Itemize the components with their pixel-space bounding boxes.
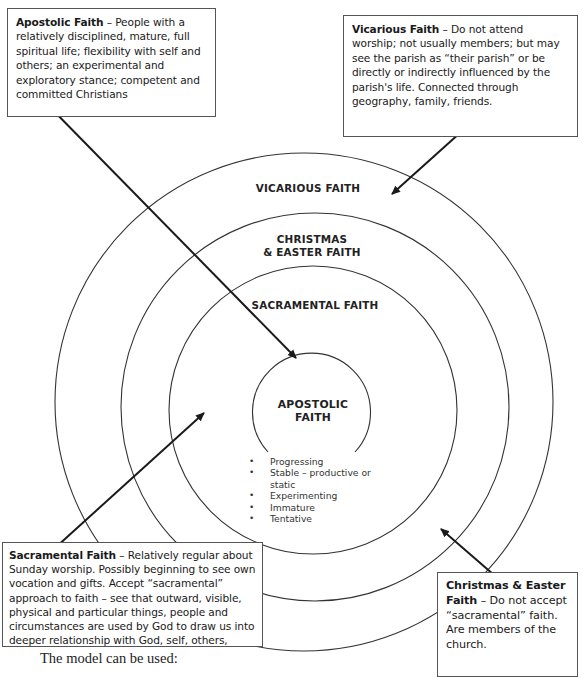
footer-text: The model can be used: bbox=[40, 650, 178, 667]
callout-sacramental: Sacramental Faith – Relatively regular a… bbox=[2, 542, 263, 647]
callout-title: Vicarious Faith bbox=[352, 23, 439, 35]
trait-item: Stable – productive or static bbox=[246, 467, 376, 490]
ring-label-christmas-easter: CHRISTMAS & EASTER FAITH bbox=[263, 233, 361, 259]
trait-item: Experimenting bbox=[246, 490, 376, 501]
ring-label-sacramental: SACRAMENTAL FAITH bbox=[252, 299, 379, 312]
trait-item: Tentative bbox=[246, 513, 376, 524]
ring-label-text: SACRAMENTAL FAITH bbox=[252, 299, 379, 311]
callout-apostolic: Apostolic Faith – People with a relative… bbox=[7, 8, 216, 117]
callout-text: – People with a relatively disciplined, … bbox=[16, 16, 201, 100]
ring-label-line: APOSTOLIC bbox=[278, 398, 348, 411]
arrow-christmas-easter bbox=[441, 529, 494, 575]
callout-christmas-easter: Christmas & Easter Faith – Do not accept… bbox=[437, 572, 578, 677]
callout-title: Apostolic Faith bbox=[16, 16, 103, 28]
ring-label-vicarious: VICARIOUS FAITH bbox=[256, 182, 360, 195]
ring-label-line: FAITH bbox=[278, 411, 348, 424]
arrow-sacramental bbox=[55, 413, 204, 548]
trait-item: Immature bbox=[246, 502, 376, 513]
trait-item: Progressing bbox=[246, 456, 376, 467]
ring-label-text: VICARIOUS FAITH bbox=[256, 182, 360, 194]
callout-text: – Relatively regular about Sunday worshi… bbox=[9, 549, 255, 646]
callout-text: – Do not attend worship; not usually mem… bbox=[352, 23, 560, 107]
ring-label-line: & EASTER FAITH bbox=[263, 246, 361, 259]
ring-label-line: CHRISTMAS bbox=[263, 233, 361, 246]
apostolic-traits-list: Progressing Stable – productive or stati… bbox=[246, 456, 376, 524]
ring-label-apostolic: APOSTOLIC FAITH bbox=[278, 398, 348, 424]
callout-vicarious: Vicarious Faith – Do not attend worship;… bbox=[343, 15, 578, 137]
callout-title: Sacramental Faith bbox=[9, 549, 116, 561]
arrow-apostolic bbox=[43, 100, 296, 358]
